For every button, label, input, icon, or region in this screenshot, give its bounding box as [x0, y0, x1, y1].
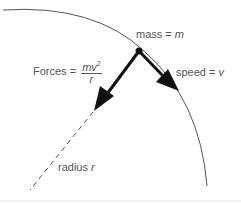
radius-variable: r [91, 161, 95, 173]
mass-label: mass = m [136, 29, 184, 40]
radius-label: radius r [58, 162, 95, 173]
forces-label: Forces = mv2r [33, 58, 102, 85]
speed-label: speed = v [176, 67, 224, 78]
circular-motion-diagram [0, 0, 241, 204]
mass-point [136, 48, 143, 55]
force-arrow-shaft [107, 51, 139, 94]
velocity-arrow-shaft [139, 51, 164, 77]
forces-fraction: mv2r [81, 58, 102, 85]
mass-variable: m [175, 28, 184, 40]
radius-dashed-line [30, 112, 93, 190]
speed-variable: v [219, 66, 225, 78]
